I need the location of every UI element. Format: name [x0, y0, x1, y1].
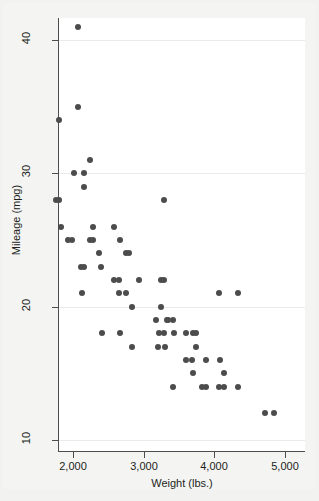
y-axis-line [58, 18, 59, 452]
scatter-point [116, 277, 122, 283]
scatter-point [81, 184, 87, 190]
scatter-point [56, 197, 62, 203]
scatter-point [129, 344, 135, 350]
scatter-point [90, 237, 96, 243]
gridline-y-20 [59, 307, 305, 308]
scatter-point [170, 384, 176, 390]
y-tick-10 [52, 440, 58, 441]
scatter-point [90, 224, 96, 230]
scatter-point [69, 237, 75, 243]
scatter-point [155, 344, 161, 350]
x-axis-title: Weight (lbs.) [59, 477, 305, 489]
scatter-point [271, 410, 277, 416]
scatter-point [75, 104, 81, 110]
x-tick-label-4000: 4,000 [184, 460, 244, 472]
scatter-point [235, 290, 241, 296]
x-tick-3000 [144, 452, 145, 458]
x-tick-2000 [73, 452, 74, 458]
screenshot-root: 10203040 2,0003,0004,0005,000 Weight (lb… [0, 0, 319, 501]
y-tick-30 [52, 173, 58, 174]
scatter-point [203, 357, 209, 363]
scatter-point [129, 304, 135, 310]
scatter-point [217, 357, 223, 363]
scatter-point [203, 384, 209, 390]
scatter-point [216, 290, 222, 296]
scatter-point [87, 157, 93, 163]
scatter-point [235, 384, 241, 390]
scatter-point [136, 277, 142, 283]
x-tick-5000 [285, 452, 286, 458]
x-tick-label-2000: 2,000 [43, 460, 103, 472]
scatter-point [221, 370, 227, 376]
scatter-point [161, 330, 167, 336]
y-tick-20 [52, 307, 58, 308]
scatter-point [158, 304, 164, 310]
x-tick-label-3000: 3,000 [114, 460, 174, 472]
scatter-point [58, 224, 64, 230]
scatter-point [75, 24, 81, 30]
scatter-point [111, 224, 117, 230]
x-tick-label-5000: 5,000 [255, 460, 315, 472]
gridline-y-30 [59, 173, 305, 174]
scatter-point [221, 384, 227, 390]
x-axis-line [58, 451, 305, 452]
scatter-point [81, 264, 87, 270]
scatter-point [161, 277, 167, 283]
graph-region: 10203040 2,0003,0004,0005,000 Weight (lb… [3, 3, 316, 489]
scatter-point [193, 344, 199, 350]
scatter-point [161, 197, 167, 203]
scatter-point [98, 264, 104, 270]
gridline-y-40 [59, 40, 305, 41]
x-tick-4000 [214, 452, 215, 458]
scatter-point [56, 117, 62, 123]
plot-region [59, 18, 305, 451]
y-axis-title: Mileage (mpg) [9, 3, 23, 436]
y-axis-title-text: Mileage (mpg) [10, 184, 22, 254]
gridline-y-10 [59, 440, 305, 441]
scatter-point [162, 344, 168, 350]
y-tick-40 [52, 40, 58, 41]
